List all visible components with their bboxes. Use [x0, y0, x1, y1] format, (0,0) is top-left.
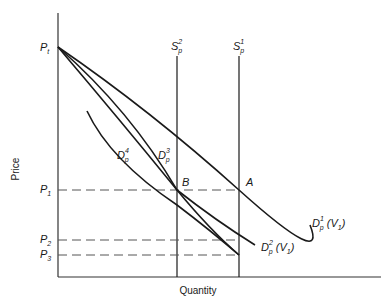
label-p2: P2 [40, 233, 51, 247]
x-axis-title: Quantity [179, 285, 216, 296]
demand-supply-diagram: Price Quantity Pt P1 P2 P3 S2p S1p D4p D… [0, 0, 391, 307]
label-d1: D1p (V1) [312, 215, 346, 232]
label-d2: D2p (V1) [261, 239, 295, 256]
demand-curve-d3 [58, 47, 239, 255]
label-p3: P3 [40, 248, 51, 262]
label-pt: Pt [40, 41, 50, 55]
point-label-a: A [245, 176, 253, 188]
demand-curve-d2 [58, 47, 255, 245]
label-p1: P1 [40, 183, 51, 197]
label-s2: S2p [171, 38, 182, 55]
point-label-b: B [182, 176, 189, 188]
y-axis-title: Price [10, 157, 21, 180]
label-s1: S1p [233, 38, 244, 55]
